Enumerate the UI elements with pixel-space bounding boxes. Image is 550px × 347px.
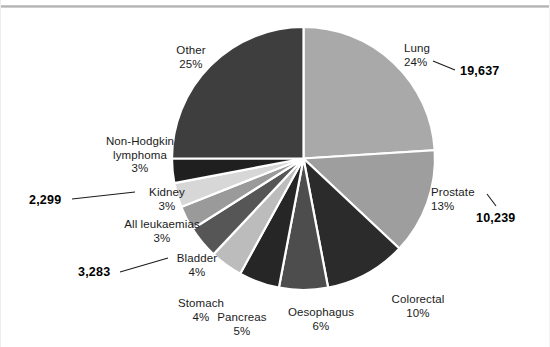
slice-label-other-percent: 25% bbox=[163, 58, 219, 72]
slice-label-nhl-percent: 3% bbox=[90, 162, 190, 176]
slice-label-lung-percent: 24% bbox=[404, 56, 430, 70]
slice-label-other: Other 25% bbox=[163, 44, 219, 71]
slice-label-colorectal-name: Colorectal bbox=[392, 293, 445, 305]
slice-label-pancreas-percent: 5% bbox=[203, 325, 281, 339]
slice-value-kidney: 2,299 bbox=[29, 193, 61, 207]
slice-label-colorectal: Colorectal 10% bbox=[375, 293, 461, 320]
slice-label-oesophagus-name: Oesophagus bbox=[288, 306, 354, 318]
leader-line-prostate bbox=[487, 194, 496, 206]
pie-chart bbox=[0, 0, 550, 347]
slice-value-bladder: 3,283 bbox=[78, 265, 110, 279]
slice-label-nhl-name-line1: Non-Hodgkin bbox=[106, 135, 174, 147]
slice-label-lung: Lung 24% bbox=[404, 42, 430, 69]
slice-label-non-hodgkin-lymphoma: Non-Hodgkin lymphoma 3% bbox=[90, 135, 190, 176]
slice-label-oesophagus: Oesophagus 6% bbox=[272, 306, 370, 333]
slice-value-prostate: 10,239 bbox=[476, 211, 515, 225]
slice-label-colorectal-percent: 10% bbox=[375, 307, 461, 321]
slice-label-bladder-name: Bladder bbox=[177, 252, 217, 264]
slice-label-stomach-percent: 4% bbox=[165, 311, 237, 325]
leader-line-lung bbox=[433, 61, 455, 70]
slice-label-oesophagus-percent: 6% bbox=[272, 320, 370, 334]
leader-line-kidney bbox=[72, 192, 135, 199]
slice-label-other-name: Other bbox=[176, 44, 205, 56]
slice-label-kidney-percent: 3% bbox=[138, 200, 196, 214]
leader-line-bladder bbox=[120, 258, 168, 272]
slice-label-nhl-name-line2: lymphoma bbox=[90, 149, 190, 163]
slice-label-prostate-percent: 13% bbox=[431, 200, 475, 214]
slice-label-all-leukaemias-percent: 3% bbox=[114, 232, 210, 246]
slice-label-prostate-name: Prostate bbox=[431, 186, 475, 198]
slice-label-lung-name: Lung bbox=[404, 42, 430, 54]
figure-canvas: Lung 24% 19,637 Prostate 13% 10,239 Colo… bbox=[0, 0, 550, 347]
slice-label-all-leukaemias-name: All leukaemias bbox=[124, 218, 200, 230]
slice-label-prostate: Prostate 13% bbox=[431, 186, 475, 213]
slice-label-all-leukaemias: All leukaemias 3% bbox=[114, 218, 210, 245]
slice-label-kidney-name: Kidney bbox=[149, 186, 185, 198]
slice-label-bladder: Bladder 4% bbox=[168, 252, 226, 279]
slice-label-stomach-name: Stomach bbox=[178, 297, 224, 309]
slice-label-bladder-percent: 4% bbox=[168, 266, 226, 280]
slice-label-kidney: Kidney 3% bbox=[138, 186, 196, 213]
slice-label-stomach: Stomach 4% bbox=[165, 297, 237, 324]
slice-value-lung: 19,637 bbox=[460, 64, 499, 78]
